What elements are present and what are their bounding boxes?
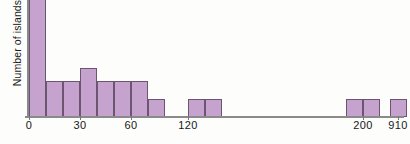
histogram-figure: Number of islands 0 30 60 120 200 910 [0,0,410,144]
histogram-bar [148,99,165,117]
histogram-bar [188,99,205,117]
histogram-bar [363,99,380,117]
x-axis-tick-label: 120 [168,119,208,131]
histogram-bar [205,99,222,117]
histogram-bar [131,81,148,117]
x-axis-tick-label: 30 [60,119,100,131]
x-axis-tick-label: 60 [111,119,151,131]
histogram-bar [80,68,97,117]
x-axis-tick-label: 910 [378,119,410,131]
histogram-bar [97,81,114,117]
x-axis-tick-label: 0 [9,119,49,131]
y-axis-title: Number of islands [11,0,27,103]
y-axis-line [27,0,29,118]
histogram-bar [114,81,131,117]
x-axis-tick-label: 200 [343,119,383,131]
x-axis-line [25,116,404,118]
x-axis-title [60,134,260,144]
histogram-bar [29,0,46,117]
histogram-bar [46,81,63,117]
plot-area [28,0,406,117]
histogram-bar [346,99,363,117]
histogram-bar [390,99,407,117]
histogram-bar [63,81,80,117]
